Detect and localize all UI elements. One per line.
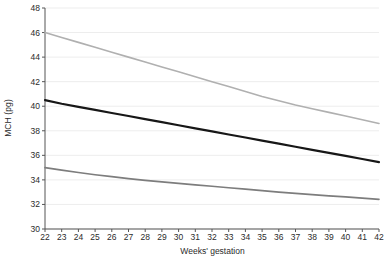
x-tick-label: 24 bbox=[74, 232, 83, 242]
x-tick-label: 42 bbox=[374, 232, 383, 242]
x-tick-label: 27 bbox=[124, 232, 133, 242]
x-tick-label: 31 bbox=[191, 232, 200, 242]
x-tick-label: 23 bbox=[57, 232, 66, 242]
x-tick-label: 32 bbox=[207, 232, 216, 242]
x-tick-label: 39 bbox=[324, 232, 333, 242]
x-tick-label: 25 bbox=[90, 232, 99, 242]
x-tick-label: 41 bbox=[358, 232, 367, 242]
x-tick-label: 40 bbox=[341, 232, 350, 242]
x-tick-label: 36 bbox=[274, 232, 283, 242]
x-tick-label: 34 bbox=[241, 232, 250, 242]
x-tick-label: 35 bbox=[257, 232, 266, 242]
x-tick-label: 29 bbox=[157, 232, 166, 242]
x-tick-label: 33 bbox=[224, 232, 233, 242]
x-tick-label: 28 bbox=[140, 232, 149, 242]
chart-container: MCH (pg) 30323436384042444648 2223242526… bbox=[0, 0, 385, 263]
x-tick-label: 38 bbox=[307, 232, 316, 242]
x-tick-label: 22 bbox=[40, 232, 49, 242]
x-tick-label: 26 bbox=[107, 232, 116, 242]
x-tick-label: 30 bbox=[174, 232, 183, 242]
x-tick-label: 37 bbox=[291, 232, 300, 242]
x-axis-title: Weeks' gestation bbox=[45, 246, 380, 256]
x-axis-tick-labels: 2223242526272829303132333435363738394041… bbox=[0, 0, 385, 263]
